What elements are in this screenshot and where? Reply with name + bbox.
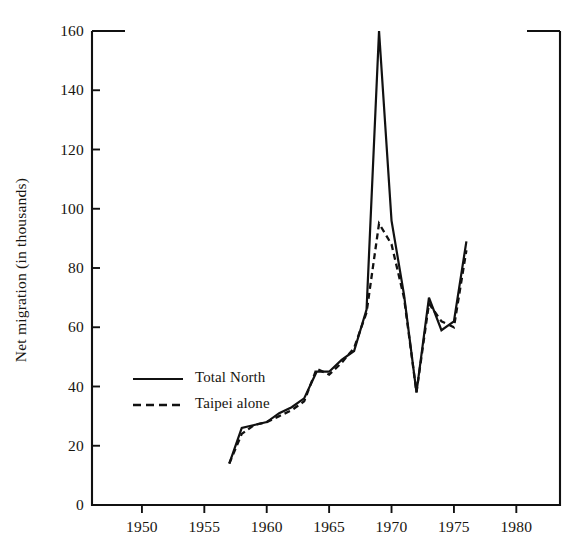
- x-tick-label: 1960: [241, 518, 293, 536]
- axis-frame: [92, 31, 560, 505]
- x-tick-label: 1980: [490, 518, 542, 536]
- y-tick-label: 40: [40, 378, 84, 396]
- x-tick-label: 1965: [303, 518, 355, 536]
- chart-figure: Net migration (in thousands) 02040608010…: [0, 0, 582, 560]
- y-tick-label: 20: [40, 437, 84, 455]
- x-tick-label: 1950: [116, 518, 168, 536]
- y-tick-label: 100: [40, 200, 84, 218]
- y-tick-label: 80: [40, 259, 84, 277]
- legend-item-label: Taipei alone: [195, 395, 270, 412]
- x-tick-label: 1970: [366, 518, 418, 536]
- x-tick-label: 1975: [428, 518, 480, 536]
- y-axis-label: Net migration (in thousands): [12, 178, 30, 362]
- y-axis-label-container: Net migration (in thousands): [8, 0, 34, 540]
- y-tick-label: 160: [40, 22, 84, 40]
- line-chart-canvas: [0, 0, 582, 560]
- x-tick-label: 1955: [178, 518, 230, 536]
- y-tick-label: 60: [40, 318, 84, 336]
- axis-ticks: [92, 31, 516, 513]
- y-tick-label: 140: [40, 81, 84, 99]
- y-tick-label: 120: [40, 141, 84, 159]
- legend-item-label: Total North: [195, 369, 265, 386]
- legend-line-samples: [133, 379, 183, 405]
- y-tick-label: 0: [40, 496, 84, 514]
- series-line-2: [229, 224, 466, 464]
